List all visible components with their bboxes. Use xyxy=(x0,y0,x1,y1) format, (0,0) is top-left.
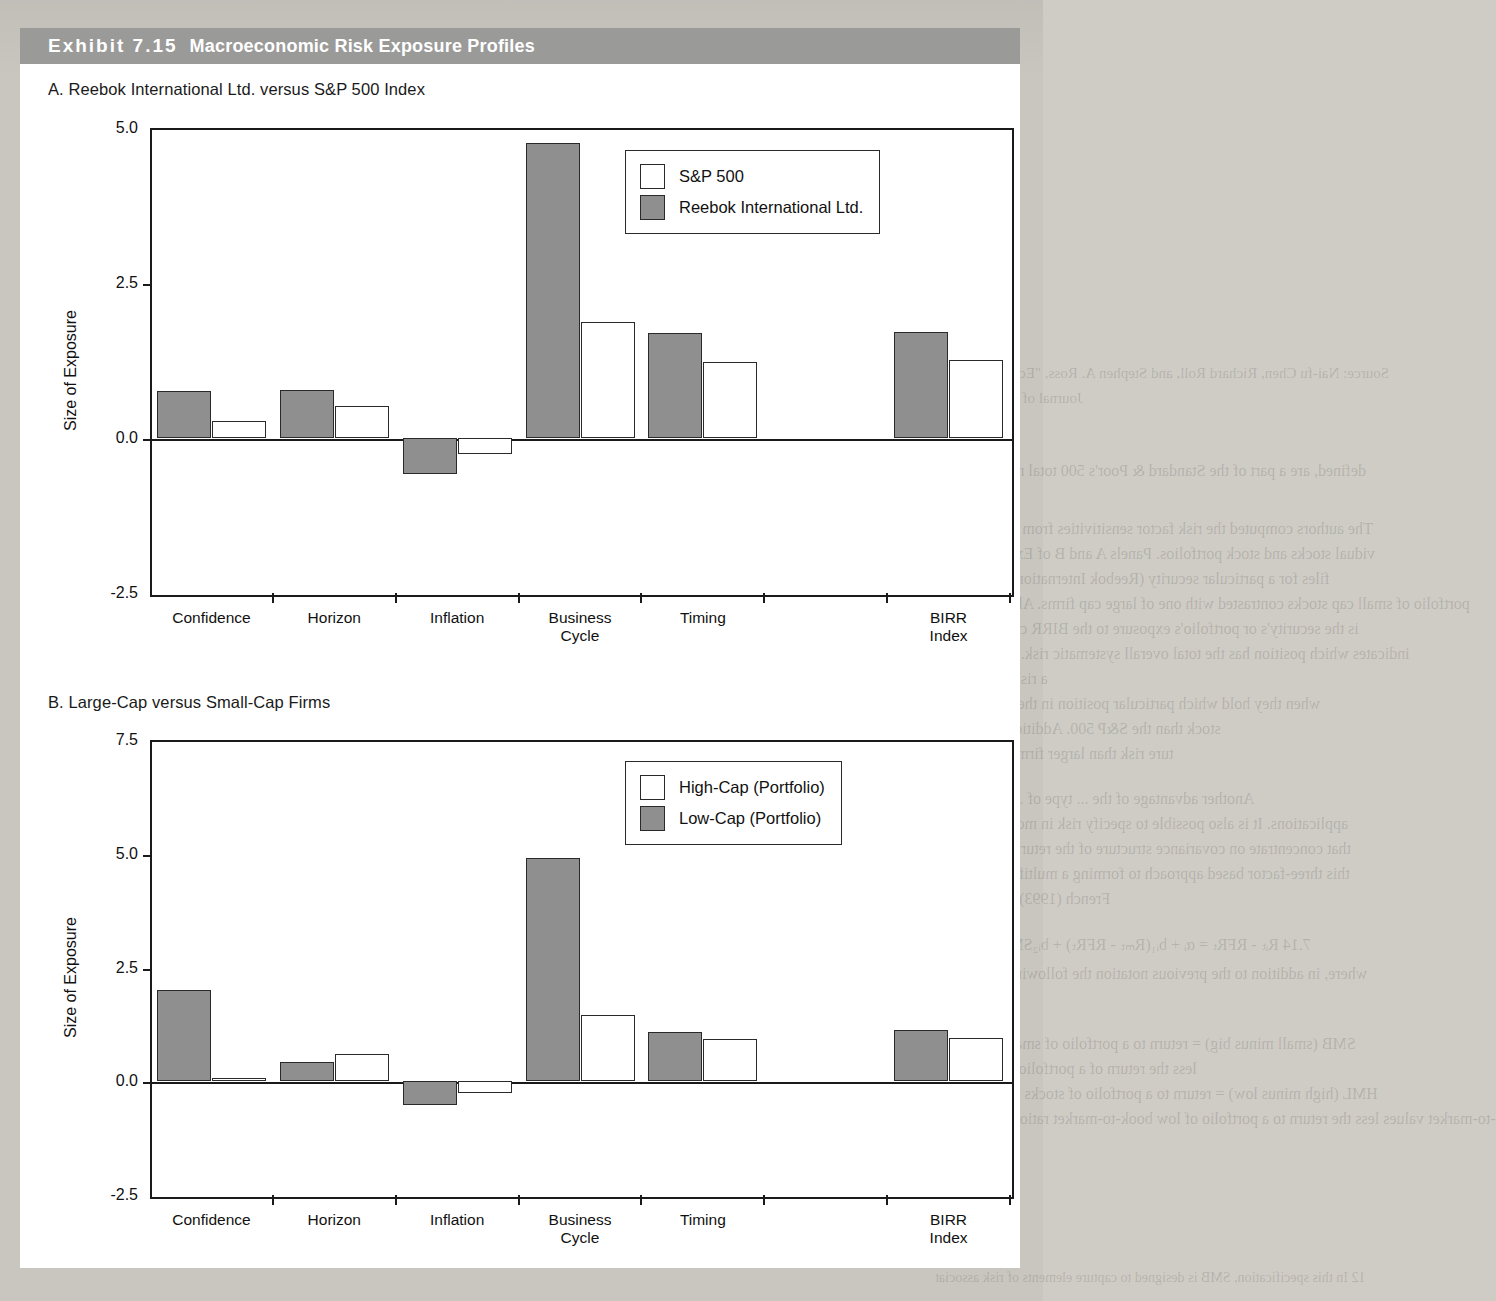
bar xyxy=(458,1081,512,1092)
y-axis-tick xyxy=(143,284,152,286)
bar xyxy=(335,406,389,438)
bar xyxy=(458,438,512,454)
x-axis-label: Timing xyxy=(680,1211,726,1229)
x-axis-label: Inflation xyxy=(430,609,484,627)
zero-baseline xyxy=(152,439,1012,441)
bar xyxy=(894,332,948,438)
bar xyxy=(648,333,702,438)
bar xyxy=(403,438,457,474)
x-axis-label: Confidence xyxy=(172,1211,250,1229)
x-axis-tick xyxy=(518,1195,520,1205)
y-axis-label: -2.5 xyxy=(88,1186,138,1204)
x-axis-tick xyxy=(640,593,642,603)
legend-item: Low-Cap (Portfolio) xyxy=(640,803,825,834)
y-axis-label: 2.5 xyxy=(88,274,138,292)
y-axis-tick xyxy=(143,439,152,441)
x-axis-tick xyxy=(886,1195,888,1205)
chart-legend: S&P 500Reebok International Ltd. xyxy=(625,150,880,234)
x-axis-tick xyxy=(640,1195,642,1205)
y-axis-label: -2.5 xyxy=(88,584,138,602)
legend-label: Reebok International Ltd. xyxy=(679,198,863,217)
bar xyxy=(648,1032,702,1081)
x-axis-tick xyxy=(763,593,765,603)
x-axis-tick xyxy=(886,593,888,603)
x-axis-label: Business Cycle xyxy=(549,1211,612,1247)
y-axis-label: 0.0 xyxy=(88,1072,138,1090)
exhibit-title: Macroeconomic Risk Exposure Profiles xyxy=(190,36,535,57)
legend-label: Low-Cap (Portfolio) xyxy=(679,809,821,828)
bar xyxy=(949,360,1003,438)
legend-item: Reebok International Ltd. xyxy=(640,192,863,223)
exhibit-number: Exhibit 7.15 xyxy=(48,35,178,57)
bar xyxy=(212,1078,266,1082)
x-axis-tick xyxy=(395,593,397,603)
x-axis-label: Business Cycle xyxy=(549,609,612,645)
bar xyxy=(703,1039,757,1081)
x-axis-tick xyxy=(395,1195,397,1205)
x-axis-label: Horizon xyxy=(308,609,361,627)
panel-a-title: A. Reebok International Ltd. versus S&P … xyxy=(48,80,425,99)
x-axis-tick xyxy=(1009,1195,1011,1205)
bar xyxy=(280,390,334,438)
bar xyxy=(894,1030,948,1081)
y-axis-label: 0.0 xyxy=(88,429,138,447)
exhibit-card: Exhibit 7.15 Macroeconomic Risk Exposure… xyxy=(20,28,1020,1268)
x-axis-label: BIRR Index xyxy=(913,1211,984,1247)
zero-baseline xyxy=(152,1082,1012,1084)
y-axis-tick xyxy=(143,855,152,857)
legend-label: High-Cap (Portfolio) xyxy=(679,778,825,797)
exhibit-header: Exhibit 7.15 Macroeconomic Risk Exposure… xyxy=(20,28,1020,64)
bar xyxy=(403,1081,457,1105)
bar xyxy=(581,1015,635,1081)
bar xyxy=(703,362,757,438)
x-axis-tick xyxy=(272,1195,274,1205)
y-axis-title: Size of Exposure xyxy=(62,917,80,1038)
plot-area xyxy=(150,740,1014,1199)
bar xyxy=(581,322,635,438)
y-axis-label: 5.0 xyxy=(88,845,138,863)
bar xyxy=(280,1062,334,1081)
y-axis-tick xyxy=(143,969,152,971)
bar xyxy=(212,421,266,438)
bar xyxy=(157,391,211,438)
y-axis-tick xyxy=(143,1082,152,1084)
x-axis-tick xyxy=(763,1195,765,1205)
y-axis-label: 2.5 xyxy=(88,959,138,977)
panel-b-title: B. Large-Cap versus Small-Cap Firms xyxy=(48,693,330,712)
bleed-text: -to-market values less the return to a p… xyxy=(990,1110,1496,1128)
y-axis-label: 7.5 xyxy=(88,731,138,749)
bar xyxy=(335,1054,389,1081)
chart-legend: High-Cap (Portfolio)Low-Cap (Portfolio) xyxy=(625,761,842,845)
legend-label: S&P 500 xyxy=(679,167,744,186)
x-axis-tick xyxy=(1009,593,1011,603)
legend-item: S&P 500 xyxy=(640,161,863,192)
legend-swatch xyxy=(640,775,665,800)
bar xyxy=(157,990,211,1081)
legend-swatch xyxy=(640,806,665,831)
bar xyxy=(949,1038,1003,1081)
x-axis-tick xyxy=(518,593,520,603)
y-axis-label: 5.0 xyxy=(88,119,138,137)
bar xyxy=(526,858,580,1081)
x-axis-label: Inflation xyxy=(430,1211,484,1229)
legend-item: High-Cap (Portfolio) xyxy=(640,772,825,803)
x-axis-label: Horizon xyxy=(308,1211,361,1229)
legend-swatch xyxy=(640,195,665,220)
legend-swatch xyxy=(640,164,665,189)
x-axis-tick xyxy=(272,593,274,603)
x-axis-label: BIRR Index xyxy=(913,609,984,645)
x-axis-label: Confidence xyxy=(172,609,250,627)
y-axis-title: Size of Exposure xyxy=(62,310,80,431)
bar xyxy=(526,143,580,438)
x-axis-label: Timing xyxy=(680,609,726,627)
